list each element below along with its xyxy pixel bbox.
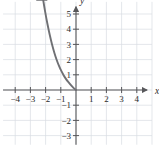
graph-figure: −4−3−2−1123454321−1−2−3 xy xyxy=(0,0,159,152)
y-axis-name: y xyxy=(79,0,85,6)
y-tick-label: −3 xyxy=(61,131,71,141)
grid-lines xyxy=(3,2,152,145)
x-tick-label: −3 xyxy=(26,94,36,104)
y-tick-label: −1 xyxy=(61,100,71,110)
y-tick-label: 5 xyxy=(67,9,72,19)
x-tick-label: 3 xyxy=(119,94,124,104)
x-axis-name: x xyxy=(154,86,159,96)
y-tick-label: 2 xyxy=(67,55,72,65)
y-tick-label: 4 xyxy=(67,24,72,34)
x-tick-label: −2 xyxy=(41,94,51,104)
x-tick-label: −4 xyxy=(10,94,20,104)
axes xyxy=(3,7,147,145)
y-tick-label: 3 xyxy=(67,40,72,50)
y-tick-label: 1 xyxy=(67,70,72,80)
y-tick-label: −2 xyxy=(61,116,71,126)
x-tick-label: 4 xyxy=(135,94,140,104)
coordinate-plane: −4−3−2−1123454321−1−2−3 xy xyxy=(0,0,159,152)
x-tick-label: 1 xyxy=(89,94,94,104)
x-tick-label: 2 xyxy=(104,94,109,104)
